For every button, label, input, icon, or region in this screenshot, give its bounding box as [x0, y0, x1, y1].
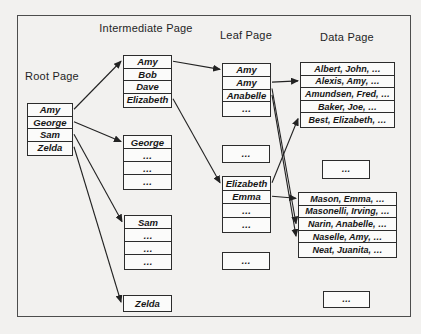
- row-data-a-4: Best, Elizabeth, …: [301, 113, 394, 126]
- row-data-b-3: Naselle, Amy, …: [299, 231, 396, 244]
- row-leaf-dots-2-0: …: [223, 253, 269, 268]
- row-int-amy-0: Amy: [124, 56, 171, 69]
- column-label-data-page: Data Page: [320, 31, 374, 43]
- page-box-root-box: AmyGeorgeSamZelda: [27, 103, 73, 156]
- page-box-int-zelda: Zelda: [123, 295, 172, 312]
- page-box-int-sam: Sam………: [124, 215, 172, 270]
- row-int-sam-1: …: [125, 229, 171, 242]
- page-box-leaf-dots-1: …: [222, 145, 270, 163]
- row-root-box-1: George: [28, 117, 72, 130]
- row-root-box-0: Amy: [28, 104, 72, 117]
- row-int-george-2: …: [124, 162, 171, 175]
- row-data-b-1: Masonelli, Irving, …: [299, 206, 396, 219]
- row-leaf-amy-2: Anabelle: [223, 90, 270, 103]
- page-box-int-amy: AmyBobDaveElizabeth: [123, 55, 172, 108]
- row-data-a-1: Alexis, Amy, …: [301, 76, 394, 89]
- column-label-leaf-page: Leaf Page: [220, 29, 272, 41]
- row-data-a-0: Albert, John, …: [301, 63, 394, 76]
- row-int-sam-2: …: [125, 242, 171, 255]
- page-box-leaf-dots-2: …: [222, 252, 270, 270]
- row-root-box-2: Sam: [28, 129, 72, 142]
- page-box-data-b: Mason, Emma, …Masonelli, Irving, …Narin,…: [298, 192, 397, 258]
- row-leaf-dots-1-0: …: [223, 146, 269, 161]
- row-leaf-elizabeth-1: Emma: [223, 191, 270, 205]
- row-int-sam-0: Sam: [125, 216, 171, 229]
- row-data-b-0: Mason, Emma, …: [299, 193, 396, 206]
- row-int-george-1: …: [124, 149, 171, 162]
- row-leaf-elizabeth-2: …: [223, 204, 270, 218]
- row-data-a-3: Baker, Joe, …: [301, 101, 394, 114]
- page-box-data-a: Albert, John, …Alexis, Amy, …Amundsen, F…: [300, 62, 395, 128]
- row-data-dots-1-0: …: [323, 161, 369, 177]
- row-data-a-2: Amundsen, Fred, …: [301, 88, 394, 101]
- row-leaf-amy-0: Amy: [223, 64, 270, 77]
- btree-index-diagram: Root Page Intermediate Page Leaf Page Da…: [0, 0, 421, 334]
- row-int-amy-3: Elizabeth: [124, 94, 171, 107]
- row-int-george-0: George: [124, 136, 171, 149]
- row-int-amy-2: Dave: [124, 81, 171, 94]
- row-int-george-3: …: [124, 175, 171, 188]
- row-data-dots-2-0: …: [324, 292, 369, 306]
- row-leaf-elizabeth-0: Elizabeth: [223, 177, 270, 191]
- page-box-leaf-elizabeth: ElizabethEmma……: [222, 176, 271, 233]
- row-leaf-elizabeth-3: …: [223, 218, 270, 232]
- row-int-zelda-0: Zelda: [124, 296, 171, 310]
- row-root-box-3: Zelda: [28, 142, 72, 155]
- row-int-sam-3: …: [125, 255, 171, 268]
- page-box-leaf-amy: AmyAmyAnabelle…: [222, 63, 271, 117]
- row-int-amy-1: Bob: [124, 69, 171, 82]
- row-leaf-amy-1: Amy: [223, 77, 270, 90]
- row-leaf-amy-3: …: [223, 102, 270, 115]
- row-data-b-4: Neat, Juanita, …: [299, 243, 396, 256]
- page-box-data-dots-1: …: [322, 160, 370, 179]
- page-box-data-dots-2: …: [323, 291, 370, 308]
- page-box-int-george: George………: [123, 135, 172, 190]
- row-data-b-2: Narin, Anabelle, …: [299, 218, 396, 231]
- column-label-intermediate-page: Intermediate Page: [99, 22, 192, 34]
- column-label-root-page: Root Page: [25, 70, 79, 82]
